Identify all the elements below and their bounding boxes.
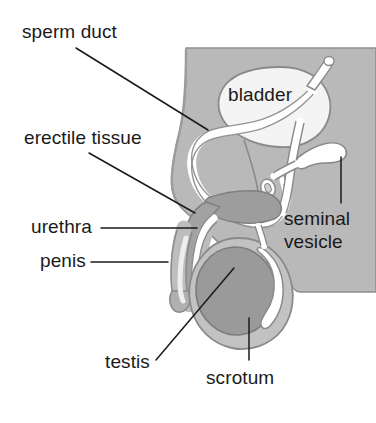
label-testis: testis — [105, 352, 150, 372]
label-scrotum: scrotum — [206, 368, 274, 388]
label-seminal-vesicle-line2: vesicle — [284, 232, 343, 252]
label-sperm-duct: sperm duct — [22, 22, 117, 42]
anatomy-diagram: sperm duct erectile tissue urethra penis… — [0, 0, 376, 423]
label-urethra: urethra — [31, 217, 92, 237]
label-penis: penis — [40, 251, 86, 271]
label-erectile-tissue: erectile tissue — [24, 128, 142, 148]
sperm-duct-tip — [324, 57, 334, 66]
label-seminal-vesicle-line1: seminal — [284, 209, 350, 229]
label-bladder: bladder — [228, 85, 292, 105]
